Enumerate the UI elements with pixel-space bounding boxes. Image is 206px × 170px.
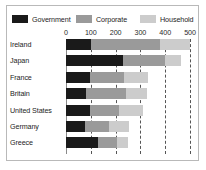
bar-segment-household[interactable] [165,55,181,66]
legend-swatch-household [140,15,156,23]
bar-row[interactable] [60,39,194,50]
stacked-bar[interactable] [66,137,128,148]
bar-segment-household[interactable] [160,39,190,50]
legend-item-government: Government [12,13,76,25]
legend-item-household: Household [140,13,194,25]
legend-label-household: Household [160,15,193,24]
legend-label-government: Government [32,15,71,24]
bar-segment-government[interactable] [66,105,90,116]
category-label: Japan [10,55,56,66]
legend-swatch-government [12,15,28,23]
category-label: Greece [10,137,56,148]
legend-label-corporate: Corporate [96,15,127,24]
bar-row[interactable] [60,72,194,83]
bar-row[interactable] [60,105,194,116]
bar-row[interactable] [60,121,194,132]
bar-segment-corporate[interactable] [123,55,165,66]
category-label: Ireland [10,39,56,50]
value-tick-label: 300 [135,28,147,37]
stacked-bar[interactable] [66,121,129,132]
value-tick-label: 0 [64,28,68,37]
value-tick-label: 400 [159,28,171,37]
stacked-bar[interactable] [66,72,148,83]
bar-row[interactable] [60,88,194,99]
category-label: Britain [10,88,56,99]
value-tick-label: 500 [184,28,196,37]
bar-segment-government[interactable] [66,121,85,132]
bar-row[interactable] [60,55,194,66]
legend-swatch-corporate [76,15,92,23]
bar-segment-household[interactable] [126,88,147,99]
value-tick-label: 100 [85,28,97,37]
category-axis: IrelandJapanFranceBritainUnited StatesGe… [10,39,58,154]
bar-segment-corporate[interactable] [90,72,125,83]
bar-segment-government[interactable] [66,55,123,66]
bar-segment-household[interactable] [124,72,148,83]
bar-segment-corporate[interactable] [86,88,126,99]
bar-segment-government[interactable] [66,88,86,99]
chart-legend: Government Corporate Household [12,13,194,25]
value-axis-ticks: 0100200300400500 [60,28,194,39]
bar-segment-household[interactable] [117,137,128,148]
bars-area [60,39,194,154]
stacked-bar[interactable] [66,88,147,99]
bar-segment-household[interactable] [119,105,143,116]
bar-segment-government[interactable] [66,137,98,148]
plot-area: 0100200300400500 [60,28,194,154]
bar-segment-corporate[interactable] [98,137,117,148]
category-label: Germany [10,121,56,132]
bar-segment-government[interactable] [66,72,90,83]
legend-item-corporate: Corporate [76,13,140,25]
bar-segment-household[interactable] [109,121,129,132]
chart-figure: Government Corporate Household IrelandJa… [0,0,206,170]
bar-segment-government[interactable] [66,39,91,50]
value-tick-label: 200 [110,28,122,37]
bar-segment-corporate[interactable] [90,105,120,116]
category-label: United States [10,105,56,116]
bar-segment-corporate[interactable] [91,39,160,50]
stacked-bar[interactable] [66,55,181,66]
stacked-bar[interactable] [66,105,143,116]
stacked-bar[interactable] [66,39,190,50]
bar-row[interactable] [60,137,194,148]
bar-segment-corporate[interactable] [85,121,110,132]
category-label: France [10,72,56,83]
